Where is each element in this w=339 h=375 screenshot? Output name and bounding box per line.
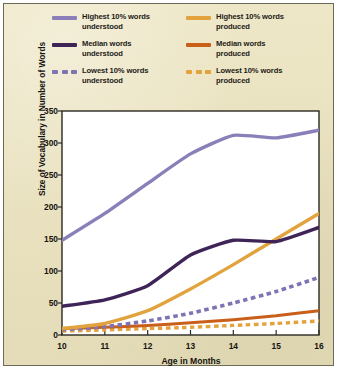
legend-swatch-median-understood — [52, 43, 77, 47]
legend-label-line2: produced — [216, 76, 250, 85]
legend-item-lowest-produced: Lowest 10% words produced — [186, 66, 330, 93]
legend-label-line2: understood — [82, 22, 123, 31]
legend-label-line1: Median words — [82, 39, 131, 48]
legend-label-median-produced: Median words produced — [216, 39, 265, 58]
legend-swatch-highest-produced — [186, 16, 211, 20]
x-axis-tick-14: 14 — [222, 341, 244, 351]
x-axis-tick-12: 12 — [137, 341, 159, 351]
x-axis-tick-10: 10 — [51, 341, 73, 351]
legend-label-highest-understood: Highest 10% words understood — [82, 12, 150, 31]
legend-label-line1: Median words — [216, 39, 265, 48]
legend-swatch-median-produced — [186, 43, 211, 47]
legend-item-highest-produced: Highest 10% words produced — [186, 12, 330, 39]
legend-item-median-understood: Median words understood — [52, 39, 186, 66]
legend-label-line1: Lowest 10% words — [216, 66, 282, 75]
legend-label-highest-produced: Highest 10% words produced — [216, 12, 284, 31]
x-axis-tick-15: 15 — [265, 341, 287, 351]
legend-label-line2: understood — [82, 49, 123, 58]
legend-swatch-lowest-produced — [186, 70, 211, 74]
legend-swatch-lowest-understood — [52, 70, 77, 74]
legend-label-median-understood: Median words understood — [82, 39, 131, 58]
legend-label-line2: understood — [82, 76, 123, 85]
legend-label-line2: produced — [216, 22, 250, 31]
chart-screenshot: Highest 10% words understood Highest 10%… — [0, 0, 339, 375]
legend-label-line1: Highest 10% words — [82, 12, 150, 21]
legend-label-line1: Highest 10% words — [216, 12, 284, 21]
chart-legend: Highest 10% words understood Highest 10%… — [52, 12, 330, 94]
x-axis-tick-13: 13 — [180, 341, 202, 351]
legend-label-lowest-understood: Lowest 10% words understood — [82, 66, 148, 85]
legend-item-highest-understood: Highest 10% words understood — [52, 12, 186, 39]
chart-panel: Highest 10% words understood Highest 10%… — [3, 3, 334, 366]
legend-label-line2: produced — [216, 49, 250, 58]
legend-label-line1: Lowest 10% words — [82, 66, 148, 75]
x-axis-tick-11: 11 — [94, 341, 116, 351]
legend-label-lowest-produced: Lowest 10% words produced — [216, 66, 282, 85]
legend-swatch-highest-understood — [52, 16, 77, 20]
legend-item-lowest-understood: Lowest 10% words understood — [52, 66, 186, 93]
legend-item-median-produced: Median words produced — [186, 39, 330, 66]
x-axis-tick-16: 16 — [308, 341, 330, 351]
